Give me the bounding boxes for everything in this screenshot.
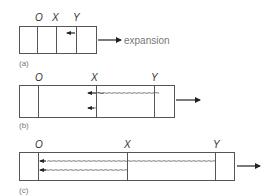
expansion-diagram: O X Y expansion (a) O X Y (b) O X Y — [0, 0, 273, 196]
caption-a: (a) — [19, 59, 29, 68]
marker-o-b: O — [35, 72, 43, 83]
caption-c: (c) — [19, 186, 29, 195]
marker-x-c: X — [123, 139, 131, 150]
light-path-wave-1-b — [98, 93, 159, 94]
marker-y-c: Y — [213, 139, 221, 150]
light-path-wave-1-c — [47, 161, 215, 162]
marker-y-b: Y — [151, 72, 159, 83]
light-path-wave-2-c — [44, 170, 127, 171]
panel-b: O X Y (b) — [19, 72, 200, 130]
panel-c: O X Y (c) — [19, 139, 260, 195]
marker-o-c: O — [35, 139, 43, 150]
marker-x-b: X — [90, 72, 98, 83]
universe-box-a — [20, 27, 97, 54]
marker-o-a: O — [35, 12, 43, 23]
expansion-label: expansion — [124, 35, 170, 46]
marker-x-a: X — [51, 12, 59, 23]
panel-a: O X Y expansion (a) — [19, 12, 170, 68]
marker-y-a: Y — [73, 12, 81, 23]
caption-b: (b) — [19, 121, 29, 130]
